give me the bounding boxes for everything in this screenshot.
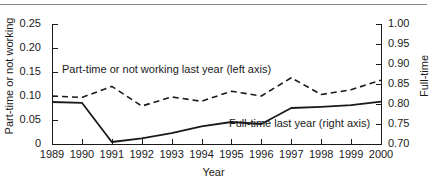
x-axis-tick-label: 1991	[100, 149, 124, 160]
y-axis-right-tick-label: 0.90	[388, 58, 409, 69]
x-axis-tick-label: 1992	[129, 149, 153, 160]
annotation-part-time: Part-time or not working last year (left…	[62, 63, 271, 75]
y-axis-left-tick-label: 0.25	[20, 18, 41, 29]
y-axis-right-tick-label: 1.00	[388, 18, 409, 29]
x-axis-tick-label: 1995	[219, 149, 243, 160]
x-axis-tick-label: 1999	[339, 149, 363, 160]
x-axis-title: Year	[0, 166, 427, 178]
series-line-part-time	[52, 78, 381, 106]
y-axis-right-tick-label: 0.75	[388, 118, 409, 129]
x-axis-tick-label: 1994	[189, 149, 213, 160]
y-axis-right-tick-label: 0.80	[388, 98, 409, 109]
x-axis-tick-label: 1993	[159, 149, 183, 160]
y-axis-right-tick-label: 0.85	[388, 78, 409, 89]
y-axis-left-title: Part-time or not working	[3, 6, 15, 146]
y-axis-right-tick-label: 0.95	[388, 38, 409, 49]
top-divider-rule	[0, 4, 427, 5]
y-axis-left-tick-label: 0.05	[20, 114, 41, 125]
x-axis-tick-label: 1997	[279, 149, 303, 160]
x-axis-tick-label: 2000	[369, 149, 393, 160]
y-axis-left-tick-label: 0.20	[20, 42, 41, 53]
y-axis-left-tick-label: 0.15	[20, 66, 41, 77]
y-axis-left-tick-label: 0.10	[20, 90, 41, 101]
y-axis-right-title: Full-time	[418, 31, 430, 121]
x-axis-tick-label: 1998	[309, 149, 333, 160]
x-axis-tick-label: 1996	[249, 149, 273, 160]
annotation-full-time: Full-time last year (right axis)	[229, 117, 370, 129]
x-axis-tick-label: 1990	[70, 149, 94, 160]
x-axis-tick-label: 1989	[40, 149, 64, 160]
